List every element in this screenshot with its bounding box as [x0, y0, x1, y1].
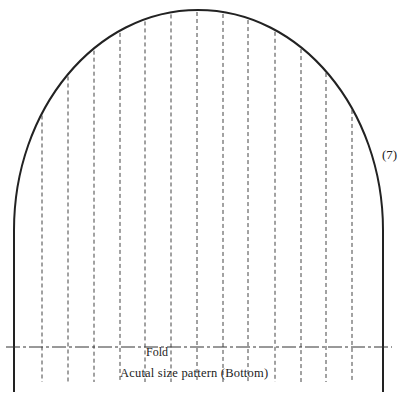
pattern-caption: Acutal size pattern (Bottom): [120, 366, 268, 381]
pattern-outline: [14, 10, 383, 392]
pattern-drawing: [0, 0, 406, 394]
pleat-lines: [42, 12, 352, 382]
pattern-number: (7): [382, 147, 397, 163]
fold-label: Fold: [146, 345, 168, 360]
